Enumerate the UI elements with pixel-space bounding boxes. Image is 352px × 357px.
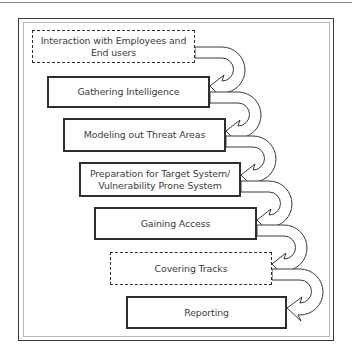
- step-label: Covering Tracks: [155, 263, 228, 275]
- step-label-line2: End users: [41, 47, 187, 59]
- step-label-line1: Interaction with Employees and: [41, 35, 187, 47]
- step-label: Reporting: [184, 307, 229, 319]
- step-gathering-intelligence: Gathering Intelligence: [47, 76, 210, 108]
- step-label: Interaction with Employees and End users: [41, 35, 187, 59]
- step-reporting: Reporting: [126, 296, 287, 329]
- step-label-line1: Preparation for Target System/: [90, 168, 230, 180]
- step-modeling-threat-areas: Modeling out Threat Areas: [63, 118, 226, 152]
- step-label: Gaining Access: [141, 218, 211, 230]
- step-label: Modeling out Threat Areas: [84, 129, 205, 141]
- step-interaction-with-employees: Interaction with Employees and End users: [32, 30, 195, 63]
- step-covering-tracks: Covering Tracks: [110, 252, 272, 285]
- step-preparation-target-system: Preparation for Target System/ Vulnerabi…: [79, 162, 241, 197]
- step-label-line2: Vulnerability Prone System: [90, 180, 230, 192]
- step-label: Preparation for Target System/ Vulnerabi…: [90, 168, 230, 192]
- step-gaining-access: Gaining Access: [94, 207, 257, 240]
- step-label: Gathering Intelligence: [77, 86, 179, 98]
